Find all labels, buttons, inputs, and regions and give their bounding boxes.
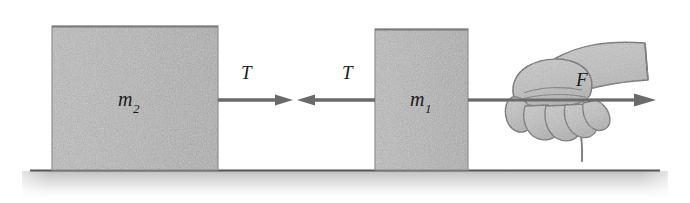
- block-m2-label-subscript: 2: [133, 101, 140, 116]
- tension-label-left: T: [241, 62, 253, 83]
- force-arrow-head: [634, 94, 656, 107]
- block-m2-body: [52, 26, 218, 170]
- tension-label-right: T: [342, 62, 354, 83]
- diagram-canvas: m 2 m 1 T T: [0, 0, 690, 203]
- hand-gripping-cord: [505, 42, 648, 141]
- block-m2: m 2: [52, 26, 218, 170]
- block-m1: m 1: [375, 29, 468, 170]
- ground-surface: [0, 168, 690, 203]
- tension-arrow-right-head: [275, 95, 293, 106]
- physics-diagram: m 2 m 1 T T: [0, 0, 690, 203]
- block-m2-label: m: [118, 88, 132, 110]
- tension-arrow-right: T: [218, 62, 293, 106]
- tension-arrow-left: T: [297, 62, 375, 106]
- block-m1-label-subscript: 1: [425, 101, 432, 116]
- tension-arrow-left-head: [297, 95, 315, 106]
- block-m1-label: m: [410, 88, 424, 110]
- ground-edge-fade: [0, 168, 690, 203]
- force-label: F: [575, 69, 588, 90]
